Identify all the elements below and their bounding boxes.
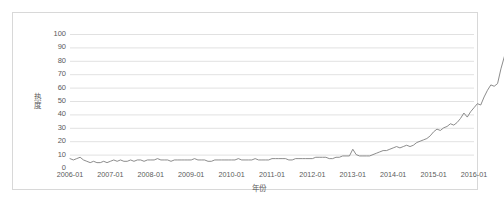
y-tick-label: 80 [58,57,66,65]
data-line-series [70,34,474,168]
x-tick-label: 2016-01 [461,171,487,178]
x-tick-label: 2007-01 [97,171,123,178]
x-tick-label: 2006-01 [57,171,83,178]
x-tick-label: 2010-01 [218,171,244,178]
y-tick-label: 100 [53,30,66,38]
plot-area [70,34,474,168]
x-tick-label: 2014-01 [380,171,406,178]
y-tick-label: 50 [58,97,66,105]
y-tick-label: 10 [58,151,66,159]
series-line [70,34,504,163]
x-tick-label: 2015-01 [420,171,446,178]
x-tick-label: 2008-01 [138,171,164,178]
y-tick-label: 90 [58,44,66,52]
x-axis-tick-labels: 2006-012007-012008-012009-012010-012011-… [70,171,474,183]
y-tick-label: 40 [58,111,66,119]
y-tick-label: 60 [58,84,66,92]
y-tick-label: 70 [58,70,66,78]
x-tick-label: 2012-01 [299,171,325,178]
chart-frame: 热度 0102030405060708090100 2006-012007-01… [12,12,478,190]
y-axis-tick-labels: 0102030405060708090100 [13,34,66,168]
x-tick-label: 2011-01 [259,171,285,178]
y-tick-label: 20 [58,137,66,145]
x-axis-label: 年份 [13,185,504,193]
y-tick-label: 30 [58,124,66,132]
x-tick-label: 2009-01 [178,171,204,178]
x-tick-label: 2013-01 [340,171,366,178]
